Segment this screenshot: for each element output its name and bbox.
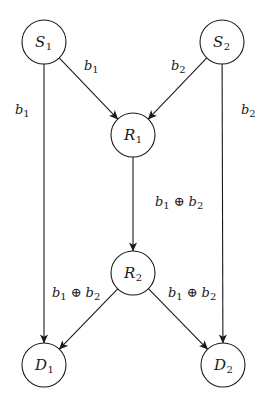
node-d2: D2	[201, 343, 245, 387]
node-d1: D1	[22, 343, 66, 387]
edge-label-s1-d1: b1	[15, 102, 30, 119]
node-r1: R1	[111, 113, 155, 157]
node-s2: S2	[200, 20, 244, 64]
edge-label-s1-r1: b1	[84, 58, 99, 75]
edge-label-r2-d1: b1⊕b2	[52, 285, 100, 302]
edge-label-s2-d2: b2	[241, 102, 256, 119]
edge-label-r2-d2: b1⊕b2	[168, 285, 216, 302]
edge-label-s2-r1: b2	[171, 58, 186, 75]
node-r2: R2	[111, 251, 155, 295]
butterfly-network-diagram: S1S2R1R2D1D2 b1b2b1b2b1⊕b2b1⊕b2b1⊕b2	[0, 0, 267, 411]
node-s1: S1	[22, 20, 66, 64]
edge-s2-d2	[222, 64, 223, 343]
edge-label-r1-r2: b1⊕b2	[155, 194, 203, 211]
